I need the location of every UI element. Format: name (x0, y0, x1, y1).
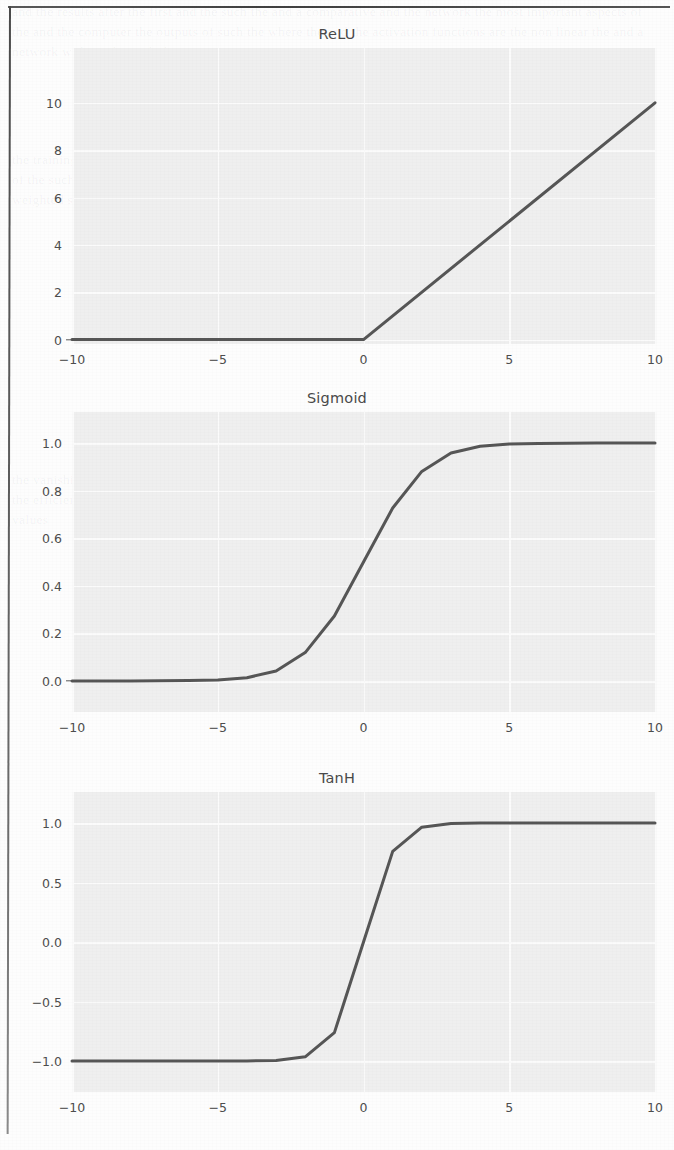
gridline-v (655, 412, 657, 712)
chart-panel-tanh: TanH −1.0 −0.5 0.0 0.5 1. (0, 760, 674, 1150)
chart-panel-sigmoid: Sigmoid 0.0 0.2 0.4 (0, 372, 674, 760)
ytick-label-sigmoid: 0.0 (16, 674, 62, 689)
plot-area-sigmoid (72, 412, 655, 712)
ytick-label-sigmoid: 0.4 (16, 578, 62, 593)
xtick-label-tanh: 5 (489, 1100, 529, 1115)
ytick-label-relu: 0 (16, 332, 62, 347)
ytick-label-relu: 10 (16, 95, 62, 110)
curve-sigmoid (72, 412, 655, 712)
xtick-label-sigmoid: 0 (344, 720, 384, 735)
xtick-label-sigmoid: 10 (635, 720, 674, 735)
plot-area-relu (72, 48, 655, 344)
xtick-label-relu: 0 (344, 352, 384, 367)
chart-title-relu: ReLU (0, 26, 674, 42)
ytick-label-sigmoid: 0.6 (16, 531, 62, 546)
xtick-label-relu: 5 (489, 352, 529, 367)
ytick-label-sigmoid: 1.0 (16, 436, 62, 451)
plot-area-tanh (72, 792, 655, 1092)
ytick-mark-relu (66, 339, 71, 340)
ytick-label-relu: 4 (16, 237, 62, 252)
curve-relu (72, 48, 655, 344)
xtick-label-sigmoid: −10 (52, 720, 92, 735)
xtick-label-tanh: 0 (344, 1100, 384, 1115)
xtick-label-tanh: −5 (198, 1100, 238, 1115)
chart-panel-relu: ReLU 0 2 4 (0, 0, 674, 372)
ytick-label-sigmoid: 0.2 (16, 626, 62, 641)
xtick-label-relu: −5 (198, 352, 238, 367)
ytick-label-relu: 6 (16, 190, 62, 205)
xtick-label-tanh: 10 (635, 1100, 674, 1115)
curve-tanh (72, 792, 655, 1092)
page-frame-top-edge (8, 6, 670, 8)
ytick-label-relu: 2 (16, 285, 62, 300)
chart-title-tanh: TanH (0, 770, 674, 786)
ytick-label-relu: 8 (16, 143, 62, 158)
xtick-label-sigmoid: 5 (489, 720, 529, 735)
ytick-label-tanh: 1.0 (16, 816, 62, 831)
ytick-label-tanh: −1.0 (16, 1054, 62, 1069)
chart-title-sigmoid: Sigmoid (0, 390, 674, 406)
xtick-label-tanh: −10 (52, 1100, 92, 1115)
ytick-label-tanh: 0.0 (16, 935, 62, 950)
ytick-label-tanh: −0.5 (16, 994, 62, 1009)
scanned-figure-page: and the results after the first and the … (0, 0, 674, 1150)
ytick-label-sigmoid: 0.8 (16, 483, 62, 498)
ytick-label-tanh: 0.5 (16, 875, 62, 890)
xtick-label-sigmoid: −5 (198, 720, 238, 735)
gridline-v (655, 792, 657, 1092)
ytick-mark-sigmoid (66, 680, 71, 681)
gridline-v (655, 48, 657, 344)
xtick-label-relu: 10 (635, 352, 674, 367)
xtick-label-relu: −10 (52, 352, 92, 367)
